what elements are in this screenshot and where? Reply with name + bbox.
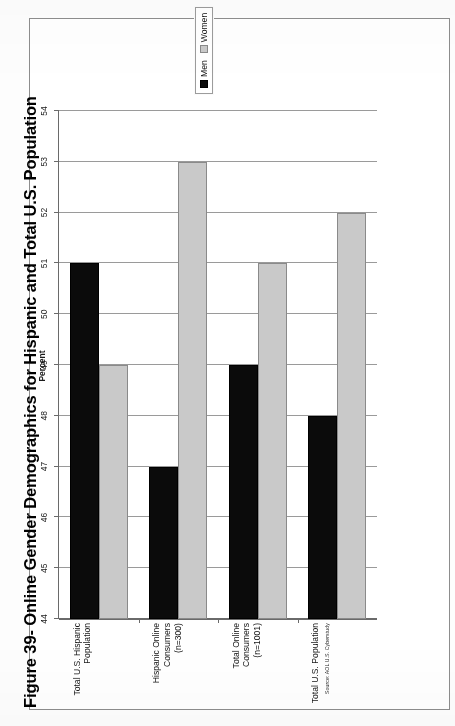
bar-women <box>337 213 366 619</box>
rotated-figure-host: Figure 39- Online Gender Demographics fo… <box>0 0 455 726</box>
scanned-page: Figure 39- Online Gender Demographics fo… <box>0 0 455 726</box>
bar-women <box>178 162 207 619</box>
bar-men <box>308 416 337 619</box>
x-axis-tick <box>54 161 59 162</box>
bar-group: Total U.S. Hispanic Population <box>59 111 139 619</box>
x-axis-tick-label: 50 <box>39 309 49 318</box>
plot-area: 4445464748495051525354 Total U.S. Hispan… <box>59 111 377 620</box>
bar-group: Total U.S. PopulationSource: AOL U.S. Cy… <box>297 111 377 619</box>
x-axis-tick <box>54 466 59 467</box>
category-label: Total Online Consumers (n=1001) <box>230 623 262 707</box>
bar-group: Total Online Consumers (n=1001) <box>218 111 298 619</box>
x-axis-tick-label: 49 <box>39 360 49 369</box>
x-axis-tick <box>54 516 59 517</box>
x-axis-tick-label: 48 <box>39 411 49 420</box>
legend-entry-women: Women <box>199 13 209 53</box>
x-axis-tick-label: 51 <box>39 259 49 268</box>
x-axis-tick <box>54 262 59 263</box>
bar-groups: Total U.S. Hispanic PopulationHispanic O… <box>59 111 377 619</box>
bar-men <box>149 467 178 619</box>
legend-label-men: Men <box>199 60 209 77</box>
bar-men <box>228 365 257 619</box>
bar-men <box>69 263 98 619</box>
bar-women <box>98 365 127 619</box>
x-axis-tick <box>54 313 59 314</box>
x-axis-tick <box>54 567 59 568</box>
legend-swatch-women-icon <box>200 45 208 53</box>
chart-legend: Men Women <box>195 7 213 94</box>
x-axis-tick <box>54 110 59 111</box>
category-label: Hispanic Online Consumers (n=300) <box>151 623 183 707</box>
x-axis-tick <box>54 618 59 619</box>
legend-label-women: Women <box>199 13 209 42</box>
x-axis-tick-label: 47 <box>39 462 49 471</box>
x-axis-tick-label: 52 <box>39 208 49 217</box>
category-label: Total U.S. Population <box>310 623 321 707</box>
bar-women <box>257 263 286 619</box>
category-separator-tick <box>138 619 139 623</box>
x-axis-tick-label: 45 <box>39 563 49 572</box>
x-axis-tick-label: 46 <box>39 513 49 522</box>
x-axis-tick <box>54 415 59 416</box>
x-axis-tick <box>54 212 59 213</box>
chart-area: Percent 4445464748495051525354 Total U.S… <box>59 112 399 620</box>
category-separator-tick <box>218 619 219 623</box>
legend-entry-men: Men <box>199 60 209 88</box>
bar-group: Hispanic Online Consumers (n=300) <box>138 111 218 619</box>
x-axis-tick <box>54 364 59 365</box>
category-separator-tick <box>297 619 298 623</box>
legend-swatch-men-icon <box>200 80 208 88</box>
x-axis-tick-label: 44 <box>39 614 49 623</box>
figure-canvas: Figure 39- Online Gender Demographics fo… <box>13 18 443 708</box>
category-label: Total U.S. Hispanic Population <box>71 623 92 707</box>
source-note: Source: AOL U.S. Cyberstudy <box>324 623 330 707</box>
x-axis-tick-label: 53 <box>39 157 49 166</box>
x-axis-tick-label: 54 <box>39 106 49 115</box>
